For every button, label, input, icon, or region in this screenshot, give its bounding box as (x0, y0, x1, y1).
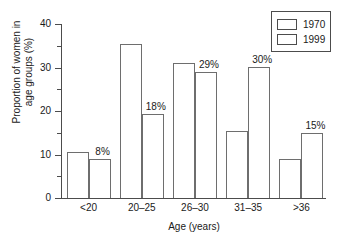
x-axis-spine (61, 198, 326, 199)
bar-1999-20–25 (142, 114, 164, 198)
y-axis-minor-tick (57, 89, 61, 90)
legend-label: 1999 (303, 34, 325, 45)
bar-value-label: 29% (196, 60, 222, 70)
bar-value-label: 8% (90, 147, 116, 157)
y-axis-minor-tick (57, 46, 61, 47)
bar-value-label: 15% (302, 121, 328, 131)
y-axis-minor-tick (57, 133, 61, 134)
y-axis-tick-label: 20 (11, 106, 51, 116)
bar-1970-<20 (67, 152, 89, 198)
x-axis-tick-label: 26–30 (168, 202, 221, 213)
x-axis-tick-label: 31–35 (222, 202, 275, 213)
legend-label: 1970 (303, 19, 325, 30)
y-axis-tick-label: 30 (11, 63, 51, 73)
y-axis-tick (55, 68, 61, 69)
bar-1999-31–35 (248, 67, 270, 198)
chart-legend: 1970 1999 (271, 11, 331, 52)
bar-group: 18% (120, 24, 164, 198)
y-axis-tick (55, 155, 61, 156)
legend-swatch-icon (277, 19, 297, 30)
y-axis-minor-tick (57, 176, 61, 177)
legend-item-1999: 1999 (277, 32, 325, 46)
x-axis-tick-label: >36 (275, 202, 328, 213)
bar-1970-26–30 (173, 63, 195, 198)
bar-1999->36 (301, 133, 323, 198)
bar-1970-31–35 (226, 131, 248, 198)
y-axis-tick (55, 111, 61, 112)
y-axis-tick-label: 10 (11, 150, 51, 160)
bar-value-label: 30% (249, 55, 275, 65)
bar-group: 29% (173, 24, 217, 198)
y-axis-tick-label: 0 (11, 193, 51, 203)
bar-value-label: 18% (143, 102, 169, 112)
y-axis-tick-label: 40 (11, 19, 51, 29)
legend-item-1970: 1970 (277, 17, 325, 31)
bar-1970-20–25 (120, 44, 142, 198)
x-axis-tick-label: <20 (62, 202, 115, 213)
x-axis-title: Age (years) (61, 221, 327, 232)
bar-group: 30% (226, 24, 270, 198)
bar-1999-26–30 (195, 72, 217, 198)
legend-swatch-icon (277, 34, 297, 45)
y-axis-tick (55, 24, 61, 25)
bar-chart: Proportion of women in age groups (%) 01… (0, 0, 338, 241)
bar-group: 8% (67, 24, 111, 198)
y-axis-tick (55, 198, 61, 199)
x-axis-tick-label: 20–25 (115, 202, 168, 213)
bar-1970->36 (279, 159, 301, 198)
bar-1999-<20 (89, 159, 111, 198)
